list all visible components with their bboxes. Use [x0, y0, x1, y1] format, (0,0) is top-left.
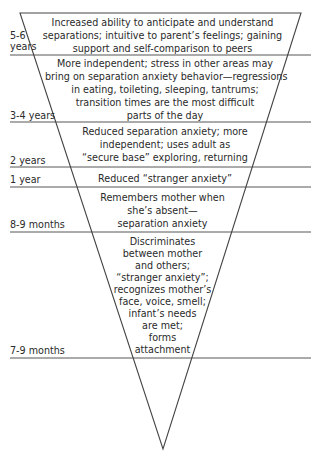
- stage-description-3-4-years: More independent; stress in other areas …: [45, 57, 285, 122]
- stage-description-8-9-months: Remembers mother when she’s absent— sepa…: [90, 191, 235, 230]
- stage-description-7-9-months: Discriminates between mother and others;…: [100, 236, 225, 356]
- age-label-2-years: 2 years: [10, 155, 46, 166]
- age-label-1-year: 1 year: [10, 174, 41, 185]
- stage-description-5-6-years: Increased ability to anticipate and unde…: [30, 16, 295, 55]
- stage-description-2-years: Reduced separation anxiety; more indepen…: [70, 125, 260, 164]
- stage-description-1-year: Reduced “stranger anxiety”: [80, 172, 250, 185]
- age-label-8-9-months: 8-9 months: [10, 219, 65, 230]
- age-label-7-9-months: 7-9 months: [10, 345, 65, 356]
